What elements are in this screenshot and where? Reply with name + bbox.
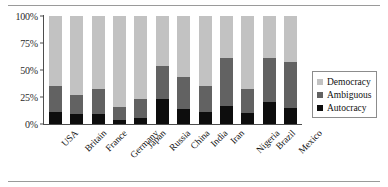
bar-column[interactable] <box>263 16 276 124</box>
bar-column[interactable] <box>220 16 233 124</box>
y-axis-tick-label: 100% <box>15 11 38 22</box>
bar-segment-democracy[interactable] <box>220 16 233 58</box>
bar-segment-autocracy[interactable] <box>134 118 147 124</box>
x-axis-label-slot: Germany <box>113 126 126 178</box>
y-axis-tick: 75% <box>20 38 44 49</box>
bar-segment-democracy[interactable] <box>241 16 254 89</box>
chart-legend: DemocracyAmbiguousAutocracy <box>312 71 377 118</box>
bar-segment-autocracy[interactable] <box>113 120 126 124</box>
bar-group <box>44 16 302 124</box>
bar-segment-democracy[interactable] <box>177 16 190 76</box>
x-axis-label-slot: Nigeria <box>241 126 254 178</box>
bar-segment-democracy[interactable] <box>134 16 147 99</box>
x-axis-label-slot: USA <box>49 126 62 178</box>
y-axis-tick: 100% <box>15 11 44 22</box>
y-axis-tick-label: 0% <box>25 119 38 130</box>
bar-segment-autocracy[interactable] <box>241 113 254 124</box>
bar-segment-ambiguous[interactable] <box>263 58 276 102</box>
bar-segment-ambiguous[interactable] <box>220 58 233 106</box>
bar-column[interactable] <box>199 16 212 124</box>
x-axis-label: Mexico <box>297 128 325 156</box>
legend-label: Autocracy <box>327 103 367 113</box>
bar-column[interactable] <box>241 16 254 124</box>
x-axis-label-slot: Russia <box>156 126 169 178</box>
bar-segment-democracy[interactable] <box>199 16 212 86</box>
legend-swatch-icon <box>317 92 323 98</box>
x-axis-label-slot: Iran <box>220 126 233 178</box>
bar-column[interactable] <box>49 16 62 124</box>
bar-segment-democracy[interactable] <box>92 16 105 89</box>
bar-segment-democracy[interactable] <box>156 16 169 66</box>
bar-column[interactable] <box>134 16 147 124</box>
x-axis-label-slot: Britain <box>70 126 83 178</box>
bar-segment-autocracy[interactable] <box>49 112 62 124</box>
bar-column[interactable] <box>70 16 83 124</box>
x-axis-label-slot: Japan <box>134 126 147 178</box>
bar-segment-autocracy[interactable] <box>70 114 83 124</box>
y-axis-tick: 25% <box>20 92 44 103</box>
bar-segment-autocracy[interactable] <box>92 114 105 124</box>
x-axis-label-slot: China <box>177 126 190 178</box>
bar-segment-ambiguous[interactable] <box>49 86 62 112</box>
chart-figure: 0%25%50%75%100% USABritainFranceGermanyJ… <box>0 0 388 187</box>
legend-label: Ambiguous <box>327 90 371 100</box>
legend-item-democracy[interactable]: Democracy <box>317 75 371 88</box>
top-horizontal-rule <box>8 5 380 6</box>
x-axis-line <box>43 124 302 125</box>
bar-column[interactable] <box>156 16 169 124</box>
bar-column[interactable] <box>92 16 105 124</box>
legend-label: Democracy <box>327 77 371 87</box>
bar-segment-autocracy[interactable] <box>177 109 190 124</box>
x-axis-labels: USABritainFranceGermanyJapanRussiaChinaI… <box>44 126 302 178</box>
bar-segment-ambiguous[interactable] <box>113 107 126 120</box>
y-axis-tick: 50% <box>20 65 44 76</box>
bar-segment-ambiguous[interactable] <box>241 89 254 113</box>
bar-segment-democracy[interactable] <box>263 16 276 58</box>
x-axis-label-slot: Brazil <box>263 126 276 178</box>
y-axis-tick-label: 75% <box>20 38 38 49</box>
bar-segment-ambiguous[interactable] <box>156 66 169 99</box>
y-axis-tick: 0% <box>25 119 44 130</box>
bar-segment-autocracy[interactable] <box>220 106 233 124</box>
legend-swatch-icon <box>317 79 323 85</box>
bar-segment-autocracy[interactable] <box>284 108 297 124</box>
bar-column[interactable] <box>284 16 297 124</box>
x-axis-label-slot: France <box>92 126 105 178</box>
bar-segment-ambiguous[interactable] <box>199 86 212 112</box>
bar-column[interactable] <box>113 16 126 124</box>
bar-segment-ambiguous[interactable] <box>284 62 297 107</box>
legend-swatch-icon <box>317 105 323 111</box>
x-axis-label-slot: Mexico <box>284 126 297 178</box>
bar-segment-democracy[interactable] <box>113 16 126 107</box>
bottom-horizontal-rule <box>8 181 380 182</box>
bar-segment-ambiguous[interactable] <box>177 77 190 109</box>
bar-segment-ambiguous[interactable] <box>92 89 105 114</box>
y-axis-tick-label: 50% <box>20 65 38 76</box>
bar-segment-autocracy[interactable] <box>263 102 276 124</box>
bar-segment-democracy[interactable] <box>70 16 83 95</box>
bar-segment-autocracy[interactable] <box>199 112 212 124</box>
bar-segment-ambiguous[interactable] <box>134 99 147 117</box>
x-axis-label-slot: India <box>199 126 212 178</box>
bar-column[interactable] <box>177 16 190 124</box>
bar-segment-autocracy[interactable] <box>156 99 169 124</box>
bar-segment-ambiguous[interactable] <box>70 95 83 114</box>
bar-segment-democracy[interactable] <box>49 16 62 86</box>
legend-item-ambiguous[interactable]: Ambiguous <box>317 88 371 101</box>
bar-segment-democracy[interactable] <box>284 16 297 62</box>
legend-item-autocracy[interactable]: Autocracy <box>317 101 371 114</box>
plot-area: 0%25%50%75%100% <box>44 16 302 124</box>
y-axis-tick-label: 25% <box>20 92 38 103</box>
